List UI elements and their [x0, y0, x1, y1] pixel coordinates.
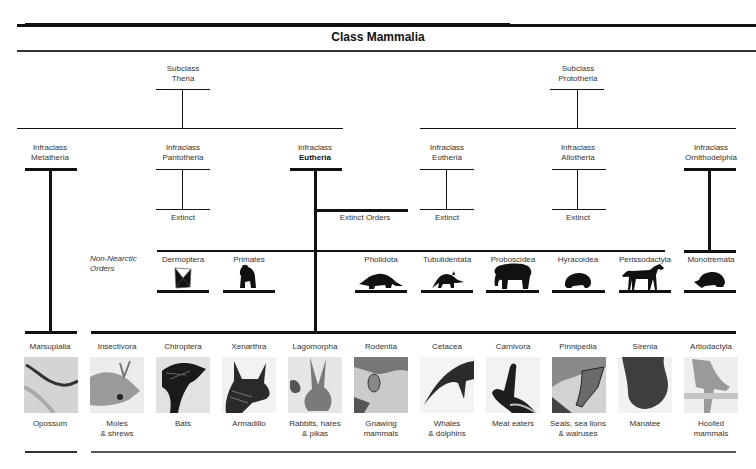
- common-name-cetacea: Whales & dolphins: [412, 419, 482, 439]
- pantotheria-extinct-label: Extinct: [148, 213, 218, 223]
- order-pinnipedia-label: Pinnipedia: [543, 342, 613, 352]
- bat-photo: [156, 357, 210, 413]
- bottom-rule-right: [91, 451, 736, 453]
- eotheria-extinct-label: Extinct: [412, 213, 482, 223]
- order-chiroptera-label: Chiroptera: [148, 342, 218, 352]
- subclass-theria-label: Subclass Theria: [148, 64, 218, 84]
- rodent-photo: [354, 357, 408, 413]
- allotheria-extinct-label: Extinct: [543, 213, 613, 223]
- eotheria-top-bar: [420, 169, 474, 170]
- infraclass-pantotheria-label: Infraclass Pantotheria: [148, 143, 218, 163]
- tubulidentata-base: [421, 290, 473, 293]
- proboscidea-base: [486, 290, 539, 293]
- order-monotremata-label: Monotremata: [676, 255, 746, 265]
- common-name-xenarthra: Armadillo: [214, 419, 284, 429]
- pantotheria-stem: [182, 169, 183, 209]
- pantotheria-bottom-bar: [156, 209, 210, 210]
- aardvark-icon: [430, 270, 464, 290]
- opossum-photo: [24, 357, 78, 413]
- order-hyracoidea-label: Hyracoidea: [543, 255, 613, 265]
- bottom-rule-left: [25, 451, 77, 453]
- carnivore-photo: [486, 357, 540, 413]
- hyracoidea-base: [552, 290, 605, 293]
- infraclass-allotheria-label: Infraclass Allotheria: [543, 143, 613, 163]
- order-dermoptera-label: Dermoptera: [148, 255, 218, 265]
- common-name-sirenia: Manatee: [610, 419, 680, 429]
- order-xenarthra-label: Xenarthra: [214, 342, 284, 352]
- order-pholidota-label: Pholidota: [346, 255, 416, 265]
- infraclass-ornithodelphia-label: Infraclass Ornithodelphia: [676, 143, 746, 163]
- order-marsupialia-label: Marsupialia: [15, 342, 85, 352]
- pantotheria-top-bar: [156, 169, 210, 170]
- common-name-marsupialia: Opossum: [15, 419, 85, 429]
- infraclass-metatheria-label: Infraclass Metatheria: [15, 143, 85, 163]
- hoofed-photo: [684, 357, 738, 413]
- order-insectivora-label: Insectivora: [82, 342, 152, 352]
- subclass-prototheria-label: Subclass Prototheria: [543, 64, 613, 84]
- order-lagomorpha-label: Lagomorpha: [280, 342, 350, 352]
- order-artiodactyla-label: Artiodactyla: [676, 342, 746, 352]
- seal-photo: [552, 357, 606, 413]
- hyrax-icon: [563, 270, 593, 290]
- order-sirenia-label: Sirenia: [610, 342, 680, 352]
- pangolin-icon: [358, 270, 404, 290]
- dermoptera-base: [157, 290, 209, 293]
- rabbit-photo: [288, 357, 342, 413]
- monotremata-top-bar: [684, 250, 736, 253]
- theria-branch: [17, 128, 343, 129]
- common-name-artiodactyla: Hoofed mammals: [676, 419, 746, 439]
- metatheria-bottom-bar: [25, 331, 77, 334]
- monotremata-base: [684, 290, 736, 293]
- infraclass-eotheria-label: Infraclass Eotheria: [412, 143, 482, 163]
- armadillo-photo: [222, 357, 276, 413]
- allotheria-top-bar: [552, 169, 606, 170]
- prototheria-branch: [420, 128, 736, 129]
- header-rule-lower: [17, 50, 756, 52]
- common-name-insectivora: Moles & shrews: [82, 419, 152, 439]
- theria-stem: [182, 89, 183, 129]
- extinct-orders-branch: [316, 209, 408, 212]
- shrew-photo: [90, 357, 144, 413]
- eotheria-bottom-bar: [420, 209, 474, 210]
- allotheria-bottom-bar: [552, 209, 606, 210]
- prototheria-stem: [577, 89, 578, 129]
- eotheria-stem: [446, 169, 447, 209]
- theria-top-bar: [156, 89, 210, 90]
- whale-photo: [420, 357, 474, 413]
- order-tubulidentata-label: Tubulidentata: [412, 255, 482, 265]
- common-name-carnivora: Meat eaters: [478, 419, 548, 429]
- order-rodentia-label: Rodentia: [346, 342, 416, 352]
- order-carnivora-label: Carnivora: [478, 342, 548, 352]
- non-nearctic-label: Non-Nearctic Orders: [90, 254, 150, 274]
- manatee-photo: [618, 357, 672, 413]
- pholidota-base: [355, 290, 407, 293]
- common-name-chiroptera: Bats: [148, 419, 218, 429]
- colugo-icon: [172, 266, 194, 290]
- ornithodelphia-stem: [708, 168, 711, 251]
- common-name-lagomorpha: Rabbits, hares & pikas: [280, 419, 350, 439]
- nearctic-orders-bar: [91, 331, 736, 334]
- common-name-rodentia: Gnawing mammals: [346, 419, 416, 439]
- gorilla-icon: [236, 264, 258, 290]
- echidna-icon: [693, 270, 727, 290]
- header-rule-upper: [17, 24, 756, 27]
- page-title: Class Mammalia: [0, 30, 756, 44]
- extinct-orders-label: Extinct Orders: [330, 213, 400, 223]
- infraclass-eutheria-label: Infraclass Eutheria: [280, 143, 350, 163]
- metatheria-stem: [49, 168, 52, 333]
- order-cetacea-label: Cetacea: [412, 342, 482, 352]
- elephant-icon: [492, 262, 534, 290]
- primates-base: [223, 290, 275, 293]
- horse-icon: [620, 263, 666, 291]
- allotheria-stem: [577, 169, 578, 209]
- common-name-pinnipedia: Seals, sea lions & walruses: [543, 419, 613, 439]
- non-nearctic-bar: [157, 250, 665, 252]
- perissodactyla-base: [619, 290, 671, 293]
